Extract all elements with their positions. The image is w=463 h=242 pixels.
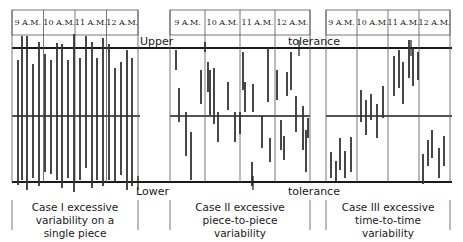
case-caption-line: single piece <box>44 227 107 239</box>
hour-label: 11 A.M. <box>75 18 107 27</box>
hour-label: 11 A.M. <box>388 18 420 27</box>
case-caption-line: Case III excessive <box>342 201 435 213</box>
case-caption-line: time-to-time <box>355 214 421 226</box>
upper-label: Upper <box>140 35 174 48</box>
hour-label: 9 A.M. <box>14 18 41 27</box>
panel-case3: 9 A.M.10 A.M.11 A.M.12 A.M.Case III exce… <box>326 10 450 239</box>
upper-tolerance-label: tolerance <box>288 35 340 48</box>
case-caption-line: Case I excessive <box>32 201 119 213</box>
hour-label: 9 A.M. <box>328 18 355 27</box>
hour-label: 12 A.M. <box>277 18 309 27</box>
hour-label: 10 A.M. <box>207 18 239 27</box>
hour-label: 10 A.M. <box>357 18 389 27</box>
lower-tolerance-label: tolerance <box>288 185 340 198</box>
hour-label: 12 A.M. <box>419 18 451 27</box>
hour-label: 11 A.M. <box>242 18 274 27</box>
hour-label: 10 A.M. <box>43 18 75 27</box>
lower-label: Lower <box>136 185 169 198</box>
panel-case1: 9 A.M.10 A.M.11 A.M.12 A.M.Case I excess… <box>12 10 138 239</box>
case-caption-line: Case II excessive <box>195 201 285 213</box>
hour-label: 12 A.M. <box>106 18 138 27</box>
case-caption-line: piece-to-piece <box>203 214 278 226</box>
case-caption-line: variability <box>214 227 266 239</box>
case-caption-line: variability <box>362 227 414 239</box>
case-caption-line: variability on a <box>36 214 114 226</box>
tolerance-variability-diagram: 9 A.M.10 A.M.11 A.M.12 A.M.Case I excess… <box>0 0 463 242</box>
hour-label: 9 A.M. <box>174 18 201 27</box>
